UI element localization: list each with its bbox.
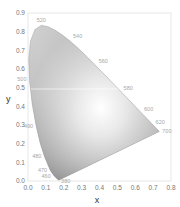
wavelength-label: 540 [73, 33, 82, 39]
wavelength-label: 500 [17, 76, 26, 82]
y-axis-ticks: 0.00.10.20.30.40.50.60.70.80.9 [16, 9, 25, 184]
wavelength-label: 600 [144, 106, 153, 112]
wavelength-label: 520 [37, 17, 46, 23]
y-tick-label: 0.5 [16, 84, 25, 91]
wavelength-label: 460 [42, 173, 51, 179]
y-tick-label: 0.4 [16, 103, 25, 110]
x-tick-label: 0.6 [131, 184, 140, 191]
wavelength-label: 480 [32, 153, 41, 159]
x-tick-label: 0.1 [41, 184, 50, 191]
y-tick-label: 0.1 [16, 159, 25, 166]
y-tick-label: 0.2 [16, 140, 25, 147]
x-tick-label: 0.7 [149, 184, 158, 191]
y-tick-label: 0.7 [16, 47, 25, 54]
x-tick-label: 0.0 [23, 184, 32, 191]
x-tick-label: 0.5 [113, 184, 122, 191]
y-tick-label: 0.6 [16, 65, 25, 72]
wavelength-label: 580 [124, 85, 133, 91]
wavelength-label: 700 [162, 128, 171, 134]
wavelength-label: 490 [24, 123, 33, 129]
y-tick-label: 0.9 [16, 9, 25, 16]
gamut-region [0, 0, 180, 207]
y-tick-label: 0.8 [16, 28, 25, 35]
x-tick-label: 0.4 [95, 184, 104, 191]
x-axis-label: x [95, 195, 100, 205]
x-tick-label: 0.3 [77, 184, 86, 191]
wavelength-label: 560 [99, 58, 108, 64]
x-axis-ticks: 0.00.10.20.30.40.50.60.70.8 [23, 184, 175, 191]
wavelength-label: 620 [156, 119, 165, 125]
wavelength-label: 470 [38, 167, 47, 173]
x-tick-label: 0.8 [166, 184, 175, 191]
wavelength-label: 380 [61, 178, 70, 184]
chromaticity-chart: 0.00.10.20.30.40.50.60.70.80.9 0.00.10.2… [0, 0, 180, 207]
y-axis-label: y [6, 94, 11, 104]
x-tick-label: 0.2 [59, 184, 68, 191]
